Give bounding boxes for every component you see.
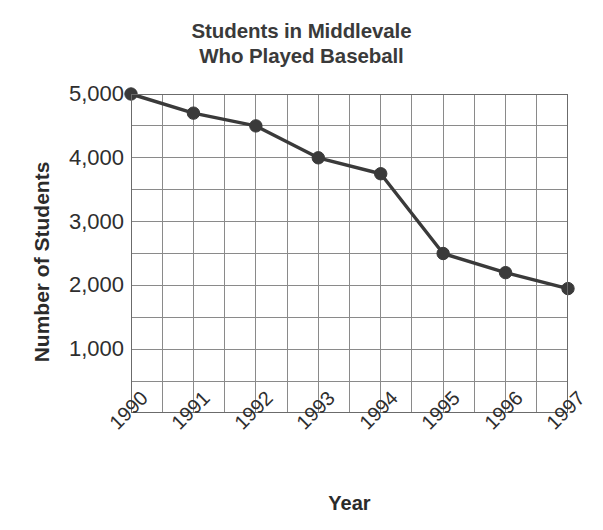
y-tick-3000: 3,000 xyxy=(4,209,124,235)
y-tick-5000: 5,000 xyxy=(4,81,124,107)
y-tick-2000: 2,000 xyxy=(4,272,124,298)
x-axis-label: Year xyxy=(131,492,568,515)
line-chart: Students in Middlevale Who Played Baseba… xyxy=(0,0,603,530)
y-tick-4000: 4,000 xyxy=(4,145,124,171)
plot-area xyxy=(131,94,568,413)
y-tick-1000: 1,000 xyxy=(4,336,124,362)
y-axis-label: Number of Students xyxy=(30,132,54,392)
plot-border xyxy=(131,94,568,413)
y-axis-tick-labels: 1,0002,0003,0004,0005,000 xyxy=(0,0,124,530)
